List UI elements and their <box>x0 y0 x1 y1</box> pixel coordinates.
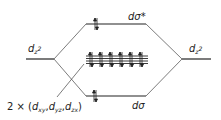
correlation-line <box>146 59 182 96</box>
bonding-label: dσ <box>132 101 145 111</box>
correlation-line <box>146 24 182 59</box>
correlation-line <box>54 59 86 96</box>
nonbonding-levels <box>86 56 148 64</box>
left-dz2-label: dz2 <box>28 44 41 54</box>
correlation-line <box>54 24 86 59</box>
pointer-line <box>57 64 84 97</box>
nonbonding-label: 2 × (dxy,dyz,dzx) <box>7 102 82 112</box>
antibonding-label: dσ* <box>128 12 146 22</box>
electron-pairs <box>89 52 144 67</box>
right-dz2-label: dz2 <box>189 44 202 54</box>
